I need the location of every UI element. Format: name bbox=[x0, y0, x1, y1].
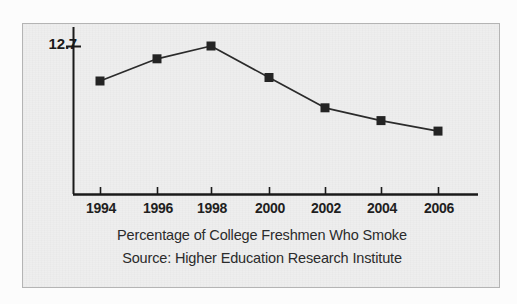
chart-title: Percentage of College Freshmen Who Smoke bbox=[23, 224, 501, 247]
data-point-2002 bbox=[321, 103, 330, 112]
data-point-1996 bbox=[153, 54, 162, 63]
data-line-series-1 bbox=[100, 46, 438, 131]
x-axis-label-1996: 1996 bbox=[134, 200, 182, 216]
chart-caption: Percentage of College Freshmen Who Smoke… bbox=[23, 224, 501, 270]
x-axis-label-1998: 1998 bbox=[188, 200, 236, 216]
data-point-2000 bbox=[265, 73, 274, 82]
data-point-2006 bbox=[434, 127, 443, 136]
chart-figure: 12.7 bbox=[0, 0, 517, 304]
x-axis-ticks bbox=[101, 187, 439, 194]
data-point-1998 bbox=[207, 42, 216, 51]
chart-source: Source: Higher Education Research Instit… bbox=[23, 247, 501, 270]
plot-area: 12.7 bbox=[23, 24, 501, 289]
data-point-1994 bbox=[96, 77, 105, 86]
data-point-2004 bbox=[377, 116, 386, 125]
x-axis-label-1994: 1994 bbox=[77, 200, 125, 216]
x-axis-label-2004: 2004 bbox=[358, 200, 406, 216]
x-axis-label-2006: 2006 bbox=[415, 200, 463, 216]
x-axis-label-2002: 2002 bbox=[302, 200, 350, 216]
chart-frame: 12.7 bbox=[22, 23, 500, 288]
x-axis-label-2000: 2000 bbox=[246, 200, 294, 216]
